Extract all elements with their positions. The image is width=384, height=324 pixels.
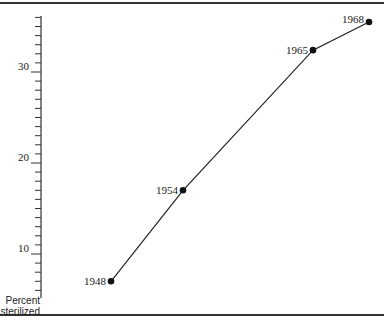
y-axis-label: Percent sterilized xyxy=(0,295,40,317)
data-point xyxy=(310,47,317,54)
y-axis-label-line1: Percent xyxy=(0,295,40,306)
y-tick-label: 30 xyxy=(18,60,30,72)
data-point xyxy=(366,19,373,26)
data-point xyxy=(108,278,115,285)
data-point-label: 1968 xyxy=(342,13,365,25)
data-line xyxy=(111,22,369,281)
data-point-label: 1954 xyxy=(156,184,179,196)
data-point-label: 1948 xyxy=(84,275,107,287)
y-tick-label: 20 xyxy=(18,151,30,163)
y-axis-label-line2: sterilized xyxy=(0,306,40,317)
line-chart: 1020301948195419651968 xyxy=(0,0,384,324)
y-tick-label: 10 xyxy=(18,242,30,254)
data-point-label: 1965 xyxy=(286,44,309,56)
data-point xyxy=(180,187,187,194)
